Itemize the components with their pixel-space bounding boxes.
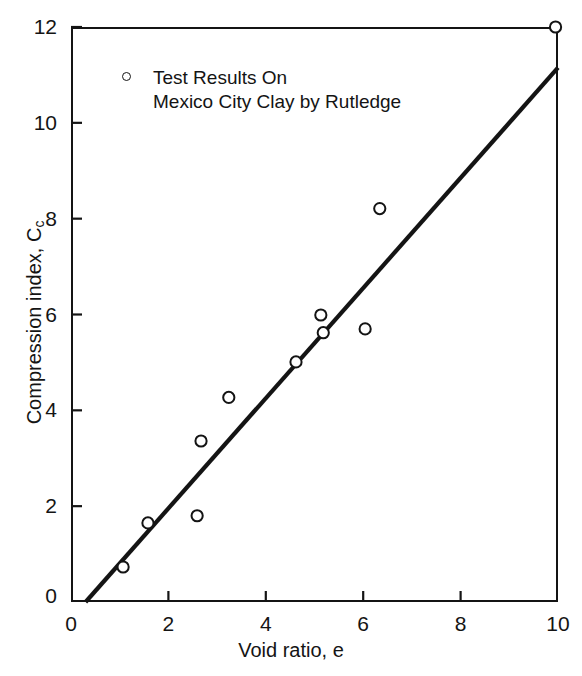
y-axis-title: Compression index, Cc — [23, 82, 48, 562]
y-axis-title-text: Compression index, C — [23, 228, 45, 425]
x-tick-label: 10 — [546, 612, 569, 636]
y-tick-label: 0 — [0, 584, 57, 608]
legend: Test Results OnMexico City Clay by Rutle… — [122, 66, 401, 115]
y-tick-label: 12 — [0, 15, 57, 39]
legend-label-line: Test Results On — [153, 66, 401, 90]
legend-label: Test Results OnMexico City Clay by Rutle… — [153, 66, 401, 115]
x-tick-label: 2 — [163, 612, 175, 636]
chart-figure: 024681012 0246810 Compression index, Cc … — [0, 0, 582, 676]
x-tick-label: 6 — [357, 612, 369, 636]
x-tick-label: 8 — [455, 612, 467, 636]
legend-marker-open-circle-icon — [122, 72, 131, 81]
x-tick-label: 4 — [260, 612, 272, 636]
legend-label-line: Mexico City Clay by Rutledge — [153, 90, 401, 114]
x-axis-title: Void ratio, e — [0, 639, 582, 662]
x-tick-label: 0 — [65, 612, 77, 636]
y-axis-title-subscript: c — [31, 221, 47, 228]
